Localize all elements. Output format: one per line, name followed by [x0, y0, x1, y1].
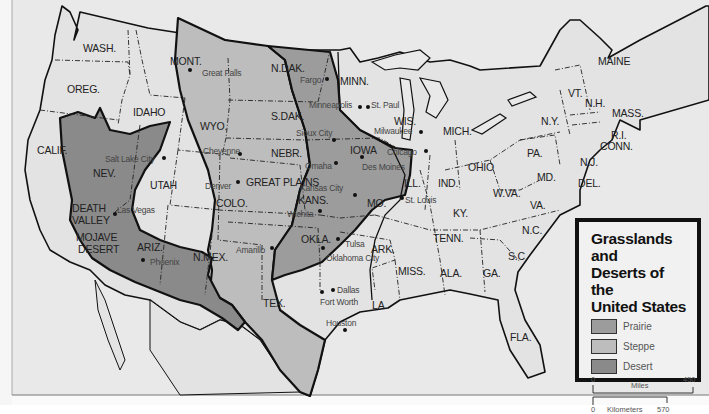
city-label: Wichita	[287, 209, 313, 219]
state-label: TENN.	[433, 233, 464, 243]
state-label: FLA.	[510, 332, 531, 342]
state-label: IDAHO	[133, 107, 165, 117]
city-label: Fargo	[300, 75, 321, 85]
city-label: Chicago	[387, 147, 417, 157]
city-label: Tulsa	[345, 239, 364, 249]
state-label: MD.	[537, 172, 556, 182]
city-label: Omaha	[305, 161, 332, 171]
city-dot-icon	[238, 152, 242, 156]
km-end: 570	[657, 405, 670, 414]
state-label: KANS.	[298, 195, 329, 205]
state-label: R.I.	[611, 130, 627, 140]
city-label: Phoenix	[150, 257, 179, 267]
state-label: N.MEX.	[193, 252, 228, 262]
city-dot-icon	[358, 105, 362, 109]
state-label: OKLA.	[301, 234, 331, 244]
desert-swatch	[591, 359, 617, 374]
city-label: Cheyenne	[203, 146, 240, 156]
city-label: Great Falls	[202, 68, 241, 78]
city-label: Milwaukee	[374, 126, 412, 136]
state-label: MINN.	[340, 76, 369, 86]
state-label: UTAH	[150, 180, 177, 190]
city-label: Houston	[326, 318, 356, 328]
km-label: Kilometers	[607, 405, 642, 414]
legend-item-desert: Desert	[591, 358, 689, 375]
city-dot-icon	[320, 290, 324, 294]
state-label: COLO.	[216, 198, 248, 208]
steppe-swatch	[591, 339, 617, 354]
city-label: Dallas	[337, 285, 359, 295]
state-label: NEBR.	[271, 148, 302, 158]
state-label: OREG.	[67, 84, 100, 94]
state-label: VA.	[530, 200, 546, 210]
state-label: ALA.	[440, 268, 462, 278]
city-dot-icon	[334, 161, 338, 165]
state-label: PA.	[527, 148, 543, 158]
state-label: N.DAK.	[271, 63, 305, 73]
state-label: MONT.	[170, 56, 202, 66]
state-label: W.VA.	[493, 188, 520, 198]
city-dot-icon	[318, 209, 322, 213]
state-label: S.C.	[508, 251, 528, 261]
city-label: St. Louis	[405, 195, 436, 205]
city-label: Minneapolis	[309, 100, 352, 110]
city-label: Amarillo	[236, 245, 265, 255]
city-dot-icon	[336, 237, 340, 241]
city-dot-icon	[366, 105, 370, 109]
miles-start: 0	[591, 375, 595, 384]
city-label: Denver	[205, 181, 231, 191]
city-label: Fort Worth	[320, 297, 358, 307]
city-dot-icon	[360, 155, 364, 159]
city-dot-icon	[113, 212, 117, 216]
region-label: DESERT	[78, 244, 119, 254]
city-label: Sioux City	[296, 128, 332, 138]
prairie-swatch	[591, 319, 617, 334]
state-label: NEV.	[93, 168, 116, 178]
state-label: MISS.	[398, 266, 426, 276]
region-label: MOJAVE	[76, 232, 117, 242]
state-label: LA.	[372, 300, 387, 310]
state-label: N.H.	[585, 98, 605, 108]
state-label: MICH.	[443, 126, 472, 136]
city-dot-icon	[162, 156, 166, 160]
city-dot-icon	[424, 149, 428, 153]
state-label: WIS.	[394, 116, 416, 126]
state-label: N.C.	[522, 225, 542, 235]
state-label: ARIZ.	[137, 242, 163, 252]
state-label: VT.	[568, 88, 583, 98]
city-dot-icon	[270, 246, 274, 250]
state-label: CONN.	[600, 141, 633, 151]
legend-item-prairie: Prairie	[591, 318, 689, 335]
city-label: St. Paul	[371, 100, 399, 110]
state-label: IND.	[438, 178, 458, 188]
miles-label: Miles	[631, 381, 649, 390]
city-dot-icon	[400, 196, 404, 200]
map-legend: Grasslands and Deserts of the United Sta…	[575, 218, 701, 382]
city-dot-icon	[141, 258, 145, 262]
state-label: KY.	[453, 208, 468, 218]
state-label: DEL.	[578, 178, 601, 188]
state-label: OHIO	[468, 162, 494, 172]
state-label: GA.	[483, 268, 501, 278]
city-label: Las Vegas	[117, 205, 155, 215]
state-label: MO.	[367, 198, 386, 208]
city-dot-icon	[343, 328, 347, 332]
km-start: 0	[591, 405, 595, 414]
city-dot-icon	[331, 288, 335, 292]
state-label: IOWA	[350, 145, 377, 155]
state-label: ILL.	[404, 178, 421, 188]
legend-title: Grasslands and Deserts of the United Sta…	[591, 230, 689, 315]
city-label: Salt Lake City	[105, 154, 155, 164]
state-label: WYO.	[200, 121, 227, 131]
state-label: N.Y.	[541, 116, 559, 126]
city-label: Kansas City	[300, 183, 343, 193]
state-label: WASH.	[83, 43, 116, 53]
state-label: CALIF.	[37, 145, 67, 155]
city-dot-icon	[236, 180, 240, 184]
city-label: Des Moines	[362, 162, 405, 172]
city-label: Oklahoma City	[326, 253, 379, 263]
region-label: DEATH	[72, 203, 106, 213]
region-label: VALLEY	[72, 215, 110, 225]
state-label: TEX.	[263, 298, 286, 308]
state-label: N.J.	[580, 157, 598, 167]
